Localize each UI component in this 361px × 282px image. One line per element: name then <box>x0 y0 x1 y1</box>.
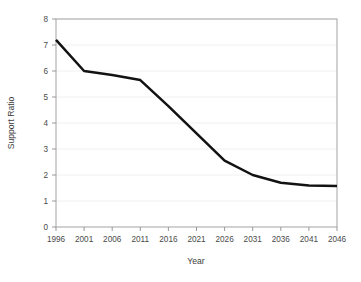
x-tick-label-2011: 2011 <box>131 235 149 244</box>
x-tick-label-2021: 2021 <box>187 235 206 244</box>
y-tick-label-7: 7 <box>43 41 48 50</box>
y-tick-label-3: 3 <box>43 145 48 154</box>
y-tick-label-5: 5 <box>43 93 48 102</box>
x-axis-title: Year <box>187 256 205 266</box>
x-tick-label-2001: 2001 <box>75 235 94 244</box>
x-tick-label-2036: 2036 <box>272 235 291 244</box>
chart-figure: 1996200120062011201620212026203120362041… <box>0 0 361 282</box>
x-tick-label-2031: 2031 <box>244 235 263 244</box>
x-tick-label-2046: 2046 <box>328 235 347 244</box>
support-ratio-line-chart: 1996200120062011201620212026203120362041… <box>0 0 361 282</box>
y-tick-label-8: 8 <box>43 15 48 24</box>
x-tick-label-2026: 2026 <box>215 235 234 244</box>
y-tick-label-1: 1 <box>43 197 48 206</box>
y-tick-label-2: 2 <box>43 171 48 180</box>
y-tick-label-6: 6 <box>43 67 48 76</box>
y-axis-title: Support Ratio <box>6 97 16 150</box>
x-tick-label-2006: 2006 <box>103 235 122 244</box>
x-axis-tick-labels-group: 1996200120062011201620212026203120362041… <box>47 235 347 244</box>
y-tick-label-0: 0 <box>43 223 48 232</box>
y-axis-tick-labels-group: 012345678 <box>43 15 48 232</box>
y-tick-label-4: 4 <box>43 119 48 128</box>
x-tick-label-2016: 2016 <box>159 235 178 244</box>
x-tick-label-1996: 1996 <box>47 235 66 244</box>
x-tick-label-2041: 2041 <box>300 235 319 244</box>
